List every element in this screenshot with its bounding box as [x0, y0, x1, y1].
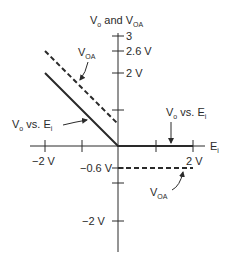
- annotation-voa-top: VOA: [78, 46, 96, 60]
- y-axis-title: Vo and VOA: [90, 14, 144, 28]
- y-tick-label-3: 3: [126, 30, 132, 42]
- x-axis-title: Ei: [210, 140, 219, 154]
- annotation-voa-bottom: VOA: [150, 186, 168, 200]
- annotation-vo-left: Vo vs. Ei: [12, 118, 53, 132]
- y-tick-label-2-6: 2.6 V: [126, 45, 152, 57]
- annotation-arrow-voa-bottom: [172, 172, 183, 190]
- annotation-vo-right: Vo vs. Ei: [166, 106, 207, 120]
- voa-curve-negative: [45, 51, 118, 124]
- y-tick-label-neg-2: −2 V: [82, 215, 106, 227]
- y-tick-label-2: 2 V: [126, 67, 143, 79]
- annotation-arrow-voa-top: [80, 62, 88, 80]
- annotation-arrow-vo-left: [63, 120, 87, 125]
- y-tick-label-neg-0-6: −0.6 V: [80, 162, 113, 174]
- x-tick-label-neg-2: −2 V: [32, 155, 56, 167]
- transfer-characteristic-diagram: Vo and VOA Ei 3 2.6 V 2 V −0.6 V −2 V −2…: [0, 0, 231, 263]
- x-tick-label-2: 2 V: [186, 155, 203, 167]
